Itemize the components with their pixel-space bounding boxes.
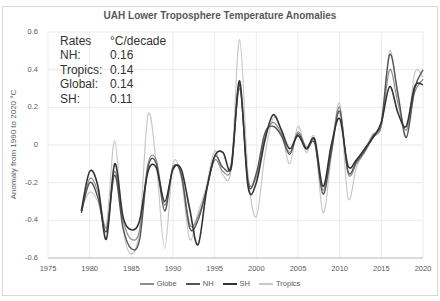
y-tick-label: -0.2	[14, 178, 38, 187]
x-tick-label: 2015	[366, 264, 396, 273]
legend-item-globe: Globe	[140, 279, 177, 288]
rate-row-tropics: Tropics: 0.14	[60, 63, 166, 77]
rate-value: 0.11	[110, 92, 132, 106]
chart-legend: Globe NH SH Tropics	[0, 279, 440, 288]
legend-item-nh: NH	[186, 279, 214, 288]
rates-header-unit: °C/decade	[110, 34, 166, 48]
x-tick-label: 2020	[408, 264, 438, 273]
rates-header-label: Rates	[60, 34, 110, 48]
legend-swatch-tropics	[259, 283, 273, 285]
legend-label: Tropics	[276, 279, 300, 288]
x-tick-label: 1990	[158, 264, 188, 273]
legend-label: Globe	[157, 279, 177, 288]
y-tick-label: -0.6	[14, 253, 38, 262]
legend-label: NH	[203, 279, 214, 288]
x-tick-label: 2010	[325, 264, 355, 273]
y-tick-label: -0.4	[14, 215, 38, 224]
rate-label: Tropics:	[60, 63, 110, 77]
rate-row-nh: NH: 0.16	[60, 48, 166, 62]
rate-row-sh: SH: 0.11	[60, 92, 166, 106]
y-tick-label: 0.4	[14, 65, 38, 74]
legend-label: SH	[240, 279, 250, 288]
legend-swatch-sh	[223, 283, 237, 285]
rate-value: 0.16	[110, 48, 133, 62]
x-tick-label: 1975	[33, 264, 63, 273]
x-tick-label: 1980	[75, 264, 105, 273]
legend-item-tropics: Tropics	[259, 279, 300, 288]
x-tick-label: 1985	[116, 264, 146, 273]
x-tick-label: 2005	[283, 264, 313, 273]
x-tick-label: 1995	[200, 264, 230, 273]
x-tick-label: 2000	[241, 264, 271, 273]
rates-header: Rates °C/decade	[60, 34, 166, 48]
rate-label: SH:	[60, 92, 110, 106]
y-tick-label: 0.6	[14, 27, 38, 36]
rate-value: 0.14	[110, 63, 133, 77]
rate-label: Global:	[60, 77, 110, 91]
rate-value: 0.14	[110, 77, 133, 91]
rates-annotation: Rates °C/decade NH: 0.16 Tropics: 0.14 G…	[60, 34, 166, 106]
y-tick-label: 0	[14, 140, 38, 149]
y-tick-label: 0.2	[14, 102, 38, 111]
rate-label: NH:	[60, 48, 110, 62]
rate-row-global: Global: 0.14	[60, 77, 166, 91]
legend-swatch-globe	[140, 283, 154, 285]
legend-swatch-nh	[186, 283, 200, 285]
legend-item-sh: SH	[223, 279, 250, 288]
